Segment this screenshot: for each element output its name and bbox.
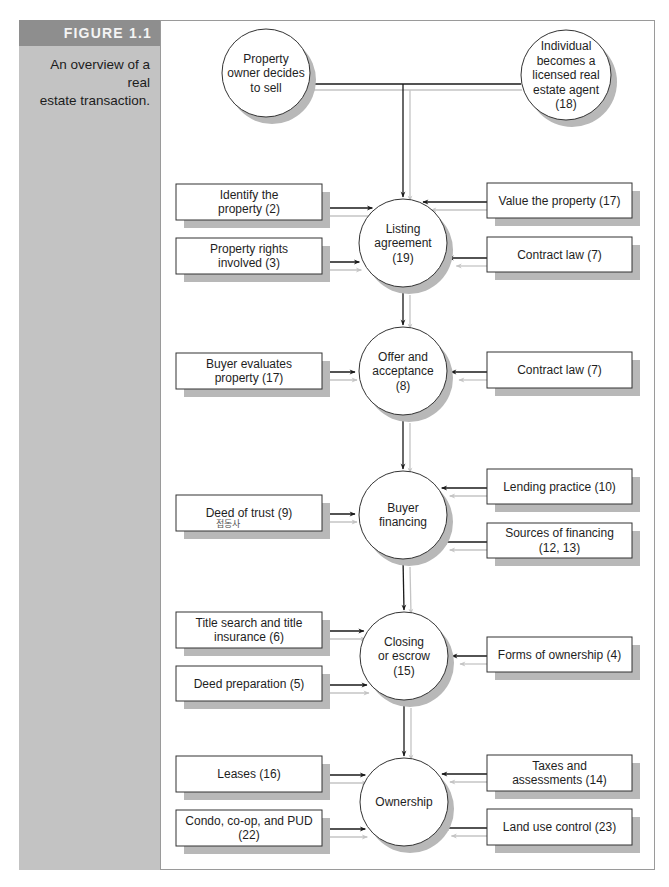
flow-arrow [403, 559, 404, 610]
input-box-left: Deed of trust (9)접동사 [176, 495, 330, 539]
node-label-line: acceptance [372, 364, 434, 378]
node-label-line: owner decides [227, 66, 304, 80]
input-box-right: Value the property (17) [487, 183, 640, 226]
node-label-line: licensed real [532, 68, 599, 82]
node-label-line: Taxes and [532, 759, 587, 773]
stage-node-listing: Listingagreement(19) [359, 199, 453, 294]
node-label-line: Ownership [375, 795, 433, 809]
node-label-line: Individual [541, 39, 592, 53]
node-label-line: estate agent [533, 83, 600, 97]
node-label-line: Property rights [210, 242, 288, 256]
node-label-line: (22) [238, 828, 259, 842]
node-label-line: to sell [250, 81, 281, 95]
node-label-line: Deed preparation (5) [194, 677, 305, 691]
node-label-line: Contract law (7) [517, 363, 602, 377]
stage-node-financing: Buyerfinancing [359, 471, 453, 566]
node-label-line: Title search and title [196, 616, 303, 630]
node-label-line: involved (3) [218, 256, 280, 270]
node-label-line: Offer and [378, 350, 428, 364]
node-label-line: Forms of ownership (4) [498, 648, 621, 662]
input-box-left: Property rightsinvolved (3) [176, 238, 330, 282]
node-label-line: becomes a [537, 54, 596, 68]
node-label-line: (12, 13) [539, 541, 580, 555]
start-node-owner: Propertyowner decidesto sell [222, 29, 316, 124]
stage-node-closing: Closingor escrow(15) [360, 612, 454, 707]
stage-node-ownership: Ownership [360, 758, 454, 853]
node-label-line: Value the property (17) [499, 194, 621, 208]
node-label-line: agreement [374, 236, 432, 250]
input-box-right: Contract law (7) [487, 237, 640, 280]
node-label-line: Listing [386, 222, 421, 236]
node-label-line: Buyer evaluates [206, 357, 292, 371]
input-box-right: Sources of financing(12, 13) [487, 523, 640, 566]
input-box-left: Leases (16) [176, 756, 330, 800]
node-label-line: Land use control (23) [503, 820, 616, 834]
node-label-line: (8) [396, 379, 411, 393]
node-label-line: (18) [555, 97, 576, 111]
node-label-line: (19) [392, 251, 413, 265]
input-box-left: Buyer evaluatesproperty (17) [176, 353, 330, 397]
stage-node-offer: Offer andacceptance(8) [359, 327, 453, 422]
node-label-line: insurance (6) [214, 630, 284, 644]
transaction-flow-diagram: Identify theproperty (2)Property rightsi… [0, 0, 669, 887]
input-box-right: Contract law (7) [487, 352, 640, 396]
nodes-layer: Identify theproperty (2)Property rightsi… [176, 29, 640, 854]
node-label-line: Condo, co-op, and PUD [185, 814, 313, 828]
handwritten-annotation: 접동사 [216, 518, 241, 529]
node-label-line: Closing [384, 635, 424, 649]
input-box-left: Condo, co-op, and PUD(22) [176, 810, 330, 854]
flow-arrow-shadow [410, 567, 411, 614]
start-node-agent: Individualbecomes alicensed realestate a… [521, 30, 617, 127]
node-label-line: (15) [393, 664, 414, 678]
node-label-line: assessments (14) [512, 773, 607, 787]
node-label-line: Deed of trust (9) [206, 506, 293, 520]
node-label-line: Sources of financing [505, 526, 614, 540]
input-box-left: Identify theproperty (2) [176, 184, 330, 228]
input-box-right: Forms of ownership (4) [487, 637, 640, 680]
node-label-line: Leases (16) [217, 767, 280, 781]
node-label-line: Property [243, 52, 288, 66]
node-label-line: or escrow [378, 649, 430, 663]
node-label-line: Lending practice (10) [503, 480, 616, 494]
node-label-line: financing [379, 515, 427, 529]
node-label-line: Buyer [387, 501, 418, 515]
node-label-line: property (2) [218, 202, 280, 216]
input-box-left: Title search and titleinsurance (6) [176, 612, 330, 656]
input-box-right: Taxes andassessments (14) [487, 755, 640, 799]
input-box-right: Lending practice (10) [487, 469, 640, 512]
node-label-line: Identify the [220, 188, 279, 202]
input-box-left: Deed preparation (5) [176, 666, 330, 709]
node-label-line: Contract law (7) [517, 248, 602, 262]
node-label-line: property (17) [215, 371, 284, 385]
input-box-right: Land use control (23) [487, 809, 640, 853]
